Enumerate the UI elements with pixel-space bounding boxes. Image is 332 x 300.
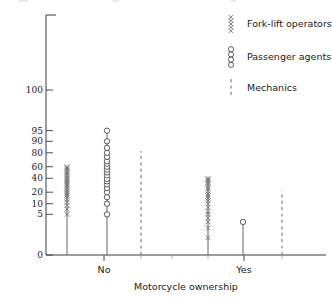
data-point-circle [104, 139, 109, 144]
y-tick-label: 90 [32, 136, 44, 146]
y-axis: 0510204060809095100 [26, 15, 56, 260]
data-point-circle [104, 128, 109, 133]
legend-marker-x [229, 29, 233, 33]
y-tick-group: 0510204060809095100 [26, 85, 53, 260]
y-tick-label: 10 [32, 199, 44, 209]
y-tick-label: 95 [32, 126, 44, 136]
x-category-label: Yes [235, 264, 251, 275]
legend-marker-circle [228, 57, 233, 62]
series-group [65, 128, 282, 255]
x-axis [46, 255, 326, 261]
y-tick-label: 5 [37, 209, 43, 219]
y-tick-label: 60 [32, 162, 44, 172]
y-tick-label: 80 [32, 148, 44, 158]
y-tick-label: 100 [26, 85, 43, 95]
chart-plot-area: 0510204060809095100 NoYes Motorcycle own… [0, 0, 332, 300]
data-point-circle [240, 219, 245, 224]
chart-legend: Fork-lift operatorsPassenger agentsMecha… [228, 15, 331, 97]
data-point-circle [104, 145, 109, 150]
legend-marker-circle [228, 52, 233, 57]
x-axis-title: Motorcycle ownership [134, 281, 238, 292]
y-tick-label: 0 [37, 250, 43, 260]
x-tick-group [104, 255, 282, 261]
legend-marker-circle [228, 62, 233, 67]
y-tick-label: 40 [32, 173, 44, 183]
category-label-group: NoYes [98, 264, 252, 275]
data-point-circle [104, 212, 109, 217]
legend-marker-circle [228, 47, 233, 52]
legend-label: Fork-lift operators [247, 18, 332, 29]
legend-label: Mechanics [247, 82, 297, 93]
data-point-circle [104, 201, 109, 206]
legend-label: Passenger agents [247, 51, 331, 62]
chart-container: 0510204060809095100 NoYes Motorcycle own… [0, 0, 332, 300]
cropped-title-artifacts [18, 0, 236, 2]
x-category-label: No [98, 264, 111, 275]
y-tick-label: 20 [32, 187, 44, 197]
